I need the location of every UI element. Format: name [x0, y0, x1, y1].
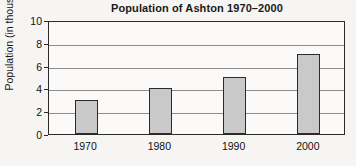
plot-area — [48, 21, 345, 135]
y-axis-tick-mark — [44, 112, 48, 113]
bar — [75, 100, 98, 134]
y-axis-title: Population (in thousands) — [3, 0, 15, 91]
y-axis-tick-mark — [44, 21, 48, 22]
y-axis-tick-label: 2 — [16, 106, 42, 118]
y-axis-tick-mark — [44, 67, 48, 68]
y-axis-tick-label: 10 — [16, 15, 42, 27]
y-axis-tick-mark — [44, 44, 48, 45]
y-axis-tick-mark — [44, 89, 48, 90]
bar — [297, 54, 320, 134]
y-axis-tick-label: 4 — [16, 83, 42, 95]
chart-title: Population of Ashton 1970–2000 — [48, 2, 346, 14]
y-axis-tick-label: 8 — [16, 38, 42, 50]
bar — [149, 88, 172, 134]
y-axis-tick-label: 0 — [16, 129, 42, 141]
bar-chart-figure: Population of Ashton 1970–2000 Populatio… — [0, 0, 356, 166]
y-axis-tick-label: 6 — [16, 61, 42, 73]
x-axis-tick-label: 1970 — [73, 140, 96, 152]
y-axis-tick-mark — [44, 135, 48, 136]
x-axis-tick-label: 1980 — [148, 140, 171, 152]
x-axis-tick-label: 2000 — [296, 140, 319, 152]
x-axis-tick-label: 1990 — [222, 140, 245, 152]
gridline — [49, 45, 344, 46]
bar — [223, 77, 246, 134]
